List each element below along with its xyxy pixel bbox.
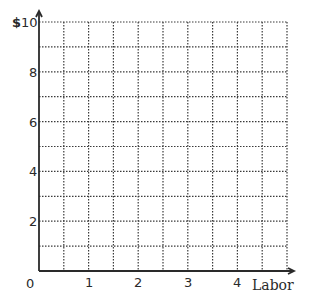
origin-label: 0 [26,276,34,291]
y-tick-4: 4 [29,164,37,179]
y-currency-label: $ [12,15,21,30]
x-tick-2: 2 [134,275,142,290]
x-tick-3: 3 [184,275,192,290]
y-tick-6: 6 [29,115,37,130]
x-tick-1: 1 [85,275,93,290]
x-tick-4: 4 [233,275,241,290]
grid-lines [39,22,287,271]
axes [36,11,294,274]
y-tick-8: 8 [29,65,37,80]
x-axis-label: Labor [252,277,294,293]
y-tick-10: 10 [21,15,38,30]
y-tick-2: 2 [29,214,37,229]
blank-graph: $ 10 8 6 4 2 0 1 2 3 4 Labor [0,0,309,301]
